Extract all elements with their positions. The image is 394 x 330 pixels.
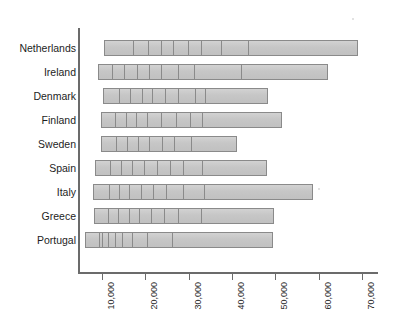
y-axis-label-denmark: Denmark <box>33 90 76 102</box>
bar-segment-divider <box>166 185 167 199</box>
bar-spain <box>95 160 267 176</box>
bar-segment-divider <box>147 113 148 127</box>
y-axis-label-sweden: Sweden <box>38 138 76 150</box>
bar-segment-divider <box>204 185 205 199</box>
bar-segment-divider <box>133 41 134 55</box>
bar-segment-divider <box>178 65 179 79</box>
y-axis-line <box>78 28 80 274</box>
bar-segment-divider <box>201 209 202 223</box>
bar-segment-divider <box>148 41 149 55</box>
x-tick-label: 20,000 <box>149 282 159 310</box>
bar-segment-divider <box>115 113 116 127</box>
bar-italy <box>93 184 313 200</box>
bar-segment-divider <box>147 233 148 247</box>
bar-segment-divider <box>108 233 109 247</box>
bar-segment-divider <box>161 65 162 79</box>
bar-segment-divider <box>102 233 103 247</box>
bar-segment-divider <box>153 185 154 199</box>
bar-segment-divider <box>136 113 137 127</box>
bar-ireland <box>98 64 328 80</box>
decorative-speck <box>318 188 320 190</box>
bar-segment-divider <box>173 41 174 55</box>
bar-segment-divider <box>129 209 130 223</box>
plot-area: Netherlands Ireland Denmark Finland Swed… <box>0 0 394 330</box>
bar-portugal <box>85 232 273 248</box>
bar-segment-divider <box>141 185 142 199</box>
bar-segment-divider <box>129 185 130 199</box>
x-tick-label: 40,000 <box>236 282 246 310</box>
x-tick-label: 10,000 <box>106 282 116 310</box>
bar-segment-divider <box>149 65 150 79</box>
bar-finland <box>101 112 282 128</box>
bar-segment-divider <box>142 89 143 103</box>
bar-segment-divider <box>165 89 166 103</box>
bar-segment-divider <box>172 233 173 247</box>
bar-segment-divider <box>126 113 127 127</box>
bar-segment-divider <box>188 41 189 55</box>
y-axis-label-finland: Finland <box>42 114 76 126</box>
bar-segment-divider <box>110 161 111 175</box>
bar-segment-divider <box>138 137 139 151</box>
bar-segment-divider <box>221 41 222 55</box>
bar-segment-divider <box>202 161 203 175</box>
bar-segment-divider <box>201 41 202 55</box>
bar-segment-divider <box>157 161 158 175</box>
bar-segment-divider <box>122 233 123 247</box>
bar-segment-divider <box>174 137 175 151</box>
bar-netherlands <box>104 40 358 56</box>
bar-segment-divider <box>132 233 133 247</box>
bar-segment-divider <box>183 185 184 199</box>
x-tick-mark <box>362 274 363 280</box>
bar-denmark <box>103 88 268 104</box>
x-tick-mark <box>189 274 190 280</box>
bar-segment-divider <box>176 113 177 127</box>
bar-segment-divider <box>109 185 110 199</box>
bar-sweden <box>101 136 237 152</box>
bar-greece <box>94 208 274 224</box>
y-axis-label-portugal: Portugal <box>37 234 76 246</box>
x-tick-label: 30,000 <box>193 282 203 310</box>
bar-segment-divider <box>127 137 128 151</box>
y-axis-label-netherlands: Netherlands <box>19 42 76 54</box>
bar-segment-divider <box>121 161 122 175</box>
x-tick-mark <box>102 274 103 280</box>
bar-segment-divider <box>202 113 203 127</box>
bar-segment-divider <box>248 41 249 55</box>
bar-segment-divider <box>151 209 152 223</box>
bar-segment-divider <box>108 209 109 223</box>
bar-segment-divider <box>130 89 131 103</box>
bar-segment-divider <box>170 161 171 175</box>
y-axis-label-italy: Italy <box>57 186 76 198</box>
bar-segment-divider <box>195 89 196 103</box>
bar-segment-divider <box>99 233 100 247</box>
bar-segment-divider <box>161 41 162 55</box>
bar-segment-divider <box>119 89 120 103</box>
bar-segment-divider <box>144 161 145 175</box>
bar-segment-divider <box>161 113 162 127</box>
bar-segment-divider <box>124 65 125 79</box>
bar-segment-divider <box>115 233 116 247</box>
bar-segment-divider <box>164 209 165 223</box>
x-tick-mark <box>145 274 146 280</box>
decorative-speck <box>352 18 354 20</box>
x-tick-mark <box>319 274 320 280</box>
x-tick-label: 70,000 <box>366 282 376 310</box>
bar-segment-divider <box>205 89 206 103</box>
x-tick-mark <box>232 274 233 280</box>
bar-segment-divider <box>152 89 153 103</box>
x-tick-mark <box>275 274 276 280</box>
x-axis-line <box>78 272 378 274</box>
bar-segment-divider <box>139 209 140 223</box>
bar-segment-divider <box>118 209 119 223</box>
y-axis-label-ireland: Ireland <box>44 66 76 78</box>
bar-segment-divider <box>162 137 163 151</box>
x-tick-label: 50,000 <box>279 282 289 310</box>
bar-segment-divider <box>178 209 179 223</box>
bar-segment-divider <box>183 161 184 175</box>
bar-segment-divider <box>178 89 179 103</box>
bar-segment-divider <box>194 65 195 79</box>
bar-segment-divider <box>190 113 191 127</box>
bar-segment-divider <box>191 137 192 151</box>
y-axis-label-greece: Greece <box>42 210 76 222</box>
bar-segment-divider <box>119 185 120 199</box>
